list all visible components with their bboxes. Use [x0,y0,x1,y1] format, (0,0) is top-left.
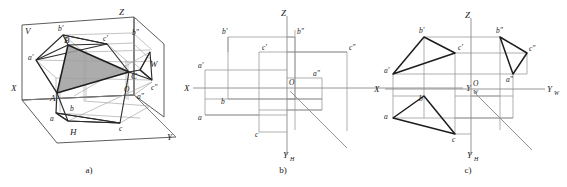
label-point-a-dprime-c: a" [506,75,514,84]
label-point-a-dprime-b: a" [313,69,321,78]
construction-front-b [205,30,347,132]
label-axis-yh-sub-c: H [473,156,479,162]
axis-45-b [290,91,347,148]
label-point-b-dprime-c: b" [496,26,504,35]
axes-c [385,18,545,155]
axis-45-c [474,92,532,150]
label-point-b-b: b [221,97,225,106]
label-point-b-prime-b: b' [222,27,228,36]
label-point-a-dprime-a: a" [137,92,145,101]
label-point-b-prime-a: b' [58,24,64,33]
panel-b: a' b' c' a b c b" c" a" X Z Y W Y H O b) [183,8,479,175]
label-axis-x-b: X [183,83,190,93]
label-point-b-dprime-b: b" [297,27,305,36]
label-origin-b: O [289,78,295,87]
label-point-c-dprime-c: c" [529,44,536,53]
caption-a: a) [86,165,93,175]
caption-b: b) [279,165,287,175]
triangle-side-view-c [500,37,527,74]
plane-edge-y [134,95,176,137]
label-axis-yw-c: Y [547,84,553,94]
label-point-C-a: C [131,71,138,81]
label-axis-x-a: X [10,83,17,93]
label-plane-h: H [69,127,77,137]
label-axis-z-b: Z [281,8,287,18]
label-point-a-prime-c: a' [384,66,390,75]
label-point-c-c: c [452,135,456,144]
label-point-c-prime-a: c' [103,34,108,43]
label-axis-yh-b: Y [283,150,289,160]
label-point-b-c: b [419,94,423,103]
panel-a: V H W X Y Z B A C a' b' c' a b c b" c" a… [10,7,176,175]
label-origin-a: O [124,85,130,94]
label-point-c-b: c [255,130,259,139]
label-point-c-prime-b: c' [262,43,267,52]
label-point-c-prime-c: c' [458,43,463,52]
label-point-a-a: a [50,114,54,123]
construction-side-b [259,37,347,131]
label-axis-z-c: Z [465,10,471,20]
label-point-c-dprime-a: c" [151,83,158,92]
label-point-a-prime-b: a' [198,61,204,70]
label-axis-z-a: Z [119,7,125,17]
label-axis-x-c: X [373,84,380,94]
label-point-A-a: A [49,93,56,103]
figure-svg: V H W X Y Z B A C a' b' c' a b c b" c" a… [0,0,567,187]
label-point-b-prime-c: b' [419,26,425,35]
caption-c: c) [465,165,472,175]
label-point-a-prime-a: a' [28,53,34,62]
shaded-triangle-ABC [57,45,129,93]
label-plane-w: W [150,59,159,69]
label-point-a-b: a [198,113,202,122]
label-plane-v: V [25,26,32,36]
label-point-b-dprime-a: b" [132,28,140,37]
label-axis-yh-sub-b: H [289,156,295,162]
label-origin-c: O [473,79,479,88]
figure-container: V H W X Y Z B A C a' b' c' a b c b" c" a… [0,0,567,187]
plane-edge-x [22,95,134,100]
label-point-a-c: a [384,112,388,121]
label-axis-yw-sub-c: W [554,90,560,96]
label-point-c-dprime-b: c" [349,43,356,52]
label-point-b-a: b [70,104,74,113]
label-point-c-a: c [119,124,123,133]
label-axis-yh-c: Y [467,150,473,160]
label-point-B-a: B [64,35,70,45]
